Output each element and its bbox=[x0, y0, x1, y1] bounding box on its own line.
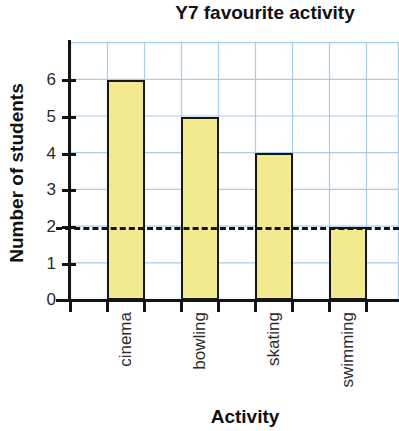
reference-line-2 bbox=[56, 227, 399, 230]
y-tick-mark-5 bbox=[62, 116, 76, 119]
x-tick-mark-6 bbox=[291, 299, 294, 312]
x-tick-mark-4 bbox=[217, 299, 220, 312]
x-category-label-swimming: swimming bbox=[338, 312, 358, 388]
chart-title: Y7 favourite activity bbox=[130, 2, 399, 24]
x-tick-mark-1 bbox=[106, 299, 109, 312]
x-tick-mark-2 bbox=[143, 299, 146, 312]
x-category-label-bowling: bowling bbox=[190, 312, 210, 370]
x-tick-mark-7 bbox=[328, 299, 331, 312]
y-tick-mark-1 bbox=[62, 263, 76, 266]
x-axis-title: Activity bbox=[155, 406, 335, 428]
bar-chart: Y7 favourite activity bbox=[0, 0, 399, 431]
bar-swimming bbox=[329, 227, 367, 300]
y-axis-title-wrap: Number of students bbox=[0, 48, 40, 298]
x-tick-mark-8 bbox=[365, 299, 368, 312]
y-tick-mark-3 bbox=[62, 189, 76, 192]
bar-cinema bbox=[107, 80, 145, 300]
x-category-wrap-swimming: swimming bbox=[329, 312, 367, 412]
x-tick-mark-3 bbox=[180, 299, 183, 312]
y-axis-title: Number of students bbox=[6, 83, 28, 262]
x-category-wrap-skating: skating bbox=[255, 312, 293, 412]
x-tick-mark-5 bbox=[254, 299, 257, 312]
x-category-wrap-bowling: bowling bbox=[181, 312, 219, 412]
y-tick-mark-4 bbox=[62, 153, 76, 156]
x-category-label-cinema: cinema bbox=[116, 312, 136, 367]
y-tick-mark-6 bbox=[62, 79, 76, 82]
x-category-label-skating: skating bbox=[264, 312, 284, 366]
bar-bowling bbox=[181, 117, 219, 300]
x-category-wrap-cinema: cinema bbox=[107, 312, 145, 412]
x-tick-mark-0 bbox=[69, 299, 72, 312]
